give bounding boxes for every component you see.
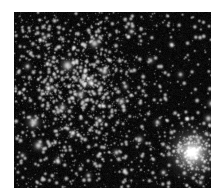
- star-field-figure: Star Field Photograph dense galactic sta…: [0, 0, 217, 188]
- star-field-image: [14, 12, 211, 188]
